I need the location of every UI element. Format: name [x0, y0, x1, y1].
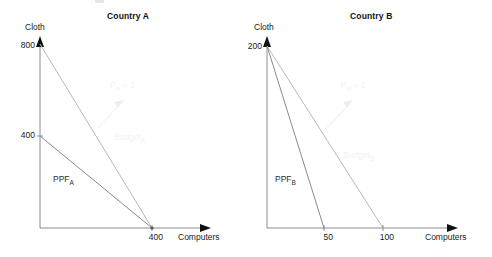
ppf-b-label-subscript: B	[292, 179, 296, 186]
chart-panel-country-a: Country A Cloth Computers 800 400 400	[0, 0, 246, 257]
budget-b-label-text: Budget	[343, 150, 370, 160]
y-tick-label-200-b: 200	[240, 41, 262, 51]
budget-b-label: BudgetB	[343, 150, 374, 162]
ppf-a-label-subscript: A	[70, 179, 74, 186]
chart-panel-country-b: Country B Cloth Computers 200 50 100 PPF…	[246, 0, 492, 257]
ppf-figure: Country A Cloth Computers 800 400 400	[0, 0, 492, 257]
y-axis-arrowhead-b	[263, 36, 271, 47]
chart-svg-country-b	[246, 0, 492, 257]
y-tick-label-400-a: 400	[13, 130, 35, 140]
budget-a-label-text: Budget	[114, 132, 141, 142]
world-price-a-value: = 2	[123, 80, 135, 90]
ppf-a-label: PPFA	[53, 174, 74, 186]
y-tick-label-800-a: 800	[13, 40, 35, 50]
budget-a-label-subscript: A	[141, 137, 145, 144]
x-axis-label-computers-a: Computers	[178, 232, 220, 242]
world-price-a-subscript: w	[116, 85, 121, 92]
x-axis-arrowhead-a	[200, 224, 211, 232]
budget-a-label: BudgetA	[114, 132, 145, 144]
annotation-pointer-head-a	[114, 100, 124, 108]
x-tick-label-50-b: 50	[315, 232, 333, 242]
ppf-line-b	[267, 46, 324, 228]
budget-b-label-subscript: B	[370, 155, 374, 162]
x-axis-arrowhead-b	[447, 224, 458, 232]
y-axis-arrowhead-a	[36, 36, 44, 47]
world-price-b-label: Pw = 2	[341, 80, 366, 92]
y-axis-label-cloth-b: Cloth	[254, 22, 274, 32]
annotation-pointer-line-a	[98, 104, 120, 128]
budget-line-b	[267, 46, 383, 228]
intersection-dot-a	[150, 226, 153, 229]
y-axis-label-cloth-a: Cloth	[25, 22, 45, 32]
annotation-pointer-head-b	[343, 100, 353, 108]
world-price-b-value: = 2	[354, 80, 366, 90]
ppf-b-label-text: PPF	[275, 174, 292, 184]
annotation-pointer-line-b	[327, 104, 349, 128]
world-price-a-label: Pw = 2	[110, 80, 135, 92]
chart-svg-country-a	[0, 0, 246, 257]
ppf-a-label-text: PPF	[53, 174, 70, 184]
x-axis-label-computers-b: Computers	[425, 232, 467, 242]
x-tick-label-400-a: 400	[141, 232, 163, 242]
x-tick-label-100-b: 100	[372, 232, 394, 242]
world-price-b-subscript: w	[347, 85, 352, 92]
ppf-b-label: PPFB	[275, 174, 296, 186]
